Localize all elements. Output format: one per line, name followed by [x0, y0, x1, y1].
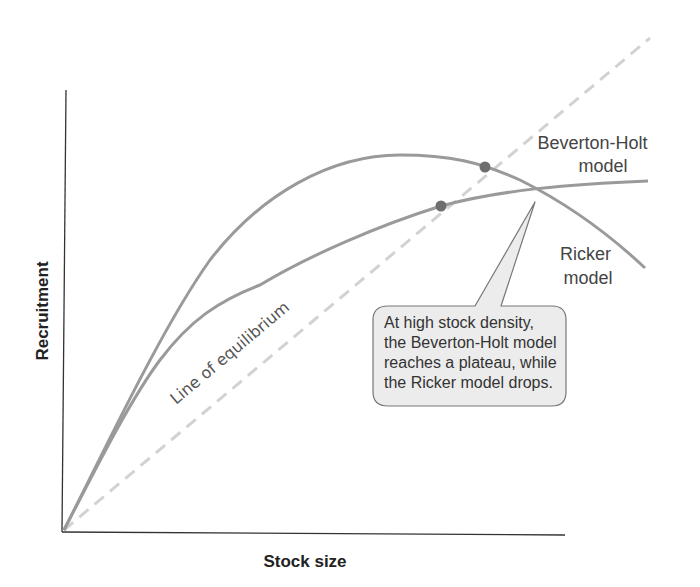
callout: At high stock density, the Beverton-Holt…: [373, 202, 566, 406]
stock-recruitment-chart: Beverton-Holt model Ricker model Line of…: [0, 0, 700, 587]
equilibrium-line: [64, 38, 650, 530]
ricker-label: Ricker model: [560, 244, 616, 288]
ricker-equilibrium-dot: [480, 162, 491, 173]
x-axis-title: Stock size: [263, 552, 346, 571]
beverton-holt-label: Beverton-Holt model: [537, 133, 652, 176]
y-axis-title: Recruitment: [33, 261, 52, 361]
y-axis: [62, 90, 66, 532]
equilibrium-label: Line of equilibrium: [166, 298, 293, 409]
beverton-holt-equilibrium-dot: [436, 201, 447, 212]
x-axis: [62, 532, 565, 535]
